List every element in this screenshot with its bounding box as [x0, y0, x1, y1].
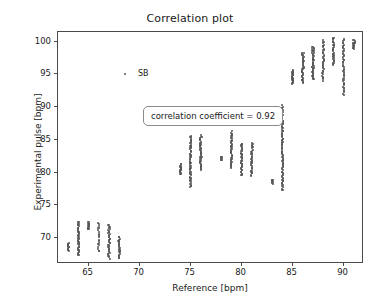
scatter-point: [342, 52, 344, 54]
scatter-point: [281, 135, 283, 137]
scatter-point: [200, 141, 202, 143]
scatter-point: [281, 133, 283, 135]
scatter-point: [322, 70, 324, 72]
x-tick-label: 80: [229, 267, 253, 277]
y-tick: [54, 204, 57, 205]
scatter-point: [271, 179, 273, 181]
scatter-point: [97, 227, 99, 229]
scatter-point: [343, 50, 345, 52]
correlation-annotation: correlation coefficient = 0.92: [143, 106, 283, 126]
scatter-point: [190, 144, 192, 146]
scatter-point: [342, 93, 344, 95]
scatter-point: [301, 70, 303, 72]
scatter-point: [292, 69, 294, 71]
scatter-point: [281, 188, 283, 190]
scatter-point: [333, 46, 335, 48]
x-tick: [190, 263, 191, 266]
scatter-points-layer: [58, 32, 362, 262]
scatter-point: [251, 167, 253, 169]
scatter-point: [252, 149, 254, 151]
scatter-point: [333, 52, 335, 54]
scatter-point: [220, 156, 222, 158]
scatter-point: [119, 238, 121, 240]
y-tick: [54, 237, 57, 238]
scatter-point: [241, 143, 243, 145]
scatter-point: [281, 147, 283, 149]
scatter-point: [98, 250, 100, 252]
scatter-point: [281, 129, 283, 131]
scatter-point: [343, 77, 345, 79]
scatter-point: [109, 258, 111, 260]
legend-label: SB: [138, 69, 149, 78]
scatter-point: [98, 242, 100, 244]
chart-title: Correlation plot: [0, 12, 380, 25]
scatter-point: [200, 136, 202, 138]
x-tick: [139, 263, 140, 266]
scatter-point: [231, 139, 233, 141]
x-tick: [241, 263, 242, 266]
chart-legend: SB: [120, 67, 153, 80]
scatter-point: [78, 237, 80, 239]
scatter-point: [230, 157, 232, 159]
scatter-point: [281, 144, 283, 146]
x-tick-label: 85: [280, 267, 304, 277]
scatter-point: [301, 52, 303, 54]
scatter-point: [88, 221, 90, 223]
scatter-point: [332, 37, 334, 39]
scatter-point: [323, 48, 325, 50]
scatter-point: [180, 163, 182, 165]
scatter-point: [190, 135, 192, 137]
x-tick-label: 65: [76, 267, 100, 277]
scatter-point: [97, 248, 99, 250]
scatter-point: [322, 51, 324, 53]
scatter-point: [241, 156, 243, 158]
y-axis-label: Experimental pulse [bpm]: [33, 52, 43, 252]
scatter-point: [118, 257, 120, 259]
y-tick-label: 100: [24, 36, 51, 46]
y-tick: [54, 139, 57, 140]
scatter-point: [67, 243, 69, 245]
plot-axes-area: SB correlation coefficient = 0.92: [57, 31, 363, 263]
scatter-point: [343, 38, 345, 40]
x-tick-label: 75: [178, 267, 202, 277]
x-tick-label: 70: [127, 267, 151, 277]
scatter-point: [342, 61, 344, 63]
x-tick: [88, 263, 89, 266]
chart-figure: Correlation plot SB correlation coeffici…: [0, 0, 380, 306]
x-tick: [343, 263, 344, 266]
scatter-point: [190, 182, 192, 184]
scatter-point: [281, 150, 283, 152]
scatter-point: [231, 154, 233, 156]
scatter-point: [323, 41, 325, 43]
scatter-point: [77, 227, 79, 229]
scatter-point: [343, 89, 345, 91]
scatter-point: [190, 171, 192, 173]
scatter-point: [241, 165, 243, 167]
scatter-point: [78, 246, 80, 248]
scatter-point: [343, 74, 345, 76]
scatter-point: [109, 226, 111, 228]
x-tick: [292, 263, 293, 266]
scatter-point: [231, 148, 233, 150]
legend-marker-icon: [124, 73, 126, 75]
scatter-point: [108, 255, 110, 257]
y-tick: [54, 73, 57, 74]
scatter-point: [119, 253, 121, 255]
y-tick: [54, 106, 57, 107]
scatter-point: [342, 58, 344, 60]
scatter-point: [343, 82, 345, 84]
x-axis-label: Reference [bpm]: [57, 283, 363, 293]
scatter-point: [241, 173, 243, 175]
x-tick-label: 90: [331, 267, 355, 277]
scatter-point: [109, 233, 111, 235]
y-tick: [54, 172, 57, 173]
y-tick: [54, 41, 57, 42]
scatter-point: [312, 61, 314, 63]
